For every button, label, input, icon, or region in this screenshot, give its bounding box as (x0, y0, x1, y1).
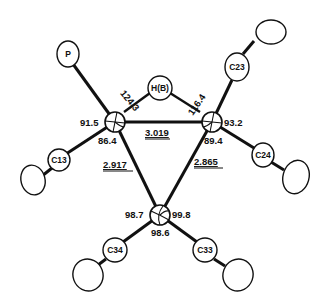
bond-c23-terminal (243, 41, 254, 54)
metal-atom-left (105, 112, 125, 132)
atom-c34-label: C34 (107, 245, 123, 255)
terminal-atom-c13 (18, 162, 49, 197)
angle-left-outer: 91.5 (80, 117, 99, 128)
atom-c23-label: C23 (229, 62, 245, 72)
angle-right-bottom: 89.4 (204, 135, 223, 146)
atom-c33: C33 (193, 238, 217, 262)
terminal-atom-c33 (218, 255, 257, 295)
distance-top: 3.019 (145, 127, 169, 138)
atom-c33-label: C33 (197, 245, 213, 255)
angle-left-top: 124.3 (118, 88, 142, 113)
atom-c24-label: C24 (255, 150, 271, 160)
distance-right: 2.865 (194, 156, 218, 167)
angle-bottom-left: 98.7 (125, 209, 144, 220)
atom-c24: C24 (252, 143, 274, 167)
atom-p-label: P (65, 49, 71, 59)
atom-c13: C13 (48, 149, 70, 171)
terminal-atom-c23 (256, 20, 286, 44)
atom-h-label: H(B) (151, 83, 169, 93)
bond-c33-terminal (214, 259, 225, 266)
metal-atom-bottom (150, 205, 170, 225)
angle-left-bottom: 86.4 (98, 135, 117, 146)
atom-h: H(B) (148, 76, 172, 100)
atom-c34: C34 (103, 238, 127, 262)
bond-c24-terminal (271, 162, 284, 170)
distance-left: 2.917 (103, 159, 127, 170)
atom-c23: C23 (225, 53, 249, 81)
metal-atom-right (202, 112, 222, 132)
angle-bottom-bottom: 98.6 (151, 227, 170, 238)
angle-bottom-right: 99.8 (172, 209, 191, 220)
atom-c13-label: C13 (51, 155, 67, 165)
terminal-atom-c24 (279, 157, 313, 197)
angle-right-outer: 93.2 (224, 117, 243, 128)
molecular-structure-diagram: P H(B) C23 C13 C24 C34 C33 (0, 0, 321, 307)
atom-p: P (57, 41, 79, 67)
